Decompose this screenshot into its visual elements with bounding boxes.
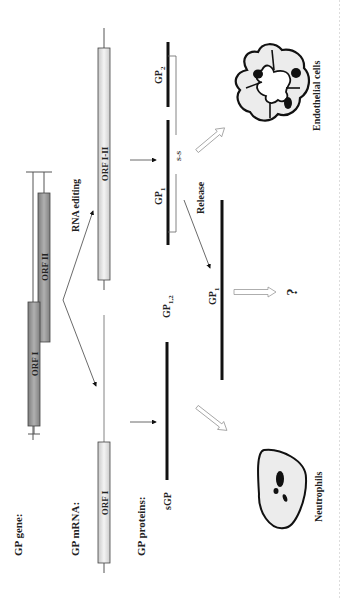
row-label-gp-gene: GP gene: xyxy=(12,514,24,556)
hollow-arrow-to-endothelial xyxy=(194,124,228,155)
svg-text:GP2: GP2 xyxy=(153,66,167,84)
gp12-label: GP1,2 xyxy=(161,295,175,318)
mrna-orf12-label: ORF I-II xyxy=(100,146,110,181)
svg-text:GP1: GP1 xyxy=(153,187,167,205)
gp-gene-expression-diagram: GP gene: GP mRNA: GP proteins: ORF II OR… xyxy=(0,0,340,599)
neutrophils-illustration: Neutrophils xyxy=(258,450,324,528)
unknown-target-question-mark: ? xyxy=(284,288,300,296)
gp2-label: GP2 xyxy=(153,66,167,84)
gene-orf2-label: ORF II xyxy=(40,253,50,281)
gp-gene-label: GP gene: xyxy=(12,514,24,556)
nucleus xyxy=(253,70,263,79)
hollow-arrow-to-question xyxy=(234,287,276,297)
gene-orf1-label: ORF I xyxy=(30,351,40,376)
ss-bond-label: S-S xyxy=(175,151,183,161)
gp-gene: ORF II ORF I xyxy=(26,172,52,440)
gp-proteins-label: GP proteins: xyxy=(135,497,147,556)
endothelial-cells-illustration: Endothelial cells xyxy=(236,44,322,131)
svg-text:GP1: GP1 xyxy=(207,287,221,305)
gp-mrna-label: GP mRNA: xyxy=(69,502,81,556)
row-label-gp-proteins: GP proteins: xyxy=(135,497,147,556)
sgp-label: sGP xyxy=(162,492,173,510)
rna-editing-label: RNA editing xyxy=(70,179,81,232)
row-label-gp-mrna: GP mRNA: xyxy=(69,502,81,556)
endothelial-cells-label: Endothelial cells xyxy=(311,61,322,131)
nucleus xyxy=(291,68,301,78)
released-gp1-label: GP1 xyxy=(207,287,221,305)
svg-text:?: ? xyxy=(284,288,300,296)
gp-proteins: sGP S-S GP2 GP1 GP1,2 Release GP1 xyxy=(153,42,222,510)
neutrophils-label: Neutrophils xyxy=(313,472,324,522)
release-label: Release xyxy=(195,181,206,214)
hollow-arrow-to-neutrophils xyxy=(194,403,230,434)
svg-text:GP1,2: GP1,2 xyxy=(161,295,175,318)
arrow-to-orf1 xyxy=(63,300,96,386)
mrna-orf1-label: ORF I xyxy=(100,490,110,515)
gp-mrna: ORF I-II ORF I xyxy=(98,28,110,573)
nucleus-lobe xyxy=(276,471,284,487)
nucleus-lobe xyxy=(274,488,279,494)
gp1-label: GP1 xyxy=(153,187,167,205)
nucleus xyxy=(284,97,292,109)
